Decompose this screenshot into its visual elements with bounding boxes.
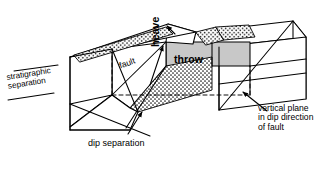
figure-canvas: stratigraphic separation fault heave thr…: [0, 0, 316, 171]
label-vertical-plane: vertical plane in dip direction of fault: [258, 104, 314, 132]
label-throw: throw: [174, 54, 203, 65]
label-dip-separation: dip separation: [88, 139, 145, 149]
stratigraphic-leader-lower: [8, 93, 54, 100]
label-heave: heave: [150, 17, 162, 47]
